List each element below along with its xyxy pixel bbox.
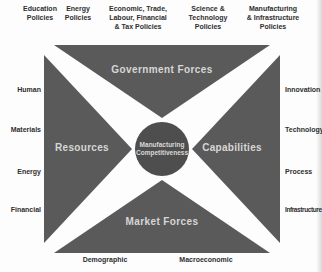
policy-label-science-technology: Science & Technology Policies: [180, 4, 236, 31]
government-forces-label: Government Forces: [111, 64, 212, 75]
market-forces-label: Market Forces: [125, 216, 198, 227]
resource-label-materials: Materials: [0, 125, 41, 134]
page-edge-shadow: [316, 0, 322, 272]
market-label-macroeconomic: Macroeconomic: [175, 256, 237, 263]
resources-label: Resources: [55, 142, 109, 153]
resource-label-human: Human: [0, 85, 41, 94]
capabilities-label: Capabilities: [202, 142, 262, 153]
policy-label-energy: Energy Policies: [58, 4, 98, 22]
capability-label-infrastructure: Infrastructure: [285, 205, 322, 214]
policy-label-manufacturing-infrastructure: Manufacturing & Infrastructure Policies: [238, 4, 308, 31]
capability-label-innovation: Innovation: [285, 85, 322, 94]
resource-label-energy: Energy: [0, 167, 41, 176]
manufacturing-competitiveness-diagram: Education Policies Energy Policies Econo…: [0, 0, 322, 272]
capability-label-technology: Technology: [285, 125, 322, 134]
center-circle-label: Manufacturing Competitiveness: [136, 141, 188, 157]
capability-label-process: Process: [285, 167, 322, 176]
center-circle: Manufacturing Competitiveness: [135, 122, 189, 176]
resource-label-financial: Financial: [0, 205, 41, 214]
market-label-demographic: Demographic: [75, 256, 135, 263]
policy-label-economic-trade: Economic, Trade, Labour, Financial & Tax…: [100, 4, 176, 31]
